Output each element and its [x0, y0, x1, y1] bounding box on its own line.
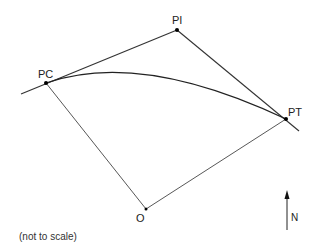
scale-note: (not to scale) — [19, 231, 77, 242]
pc-label: PC — [38, 68, 53, 80]
north-arrow-icon — [285, 190, 290, 230]
pt-label: PT — [288, 106, 302, 118]
circular-curve — [46, 72, 286, 119]
pi-point — [175, 28, 179, 32]
radius-pc-line — [46, 83, 146, 209]
curve-diagram: PC PI PT O N (not to scale) — [0, 0, 319, 248]
back-tangent-line — [21, 30, 177, 94]
north-label: N — [291, 212, 298, 223]
radius-pt-line — [146, 119, 286, 209]
o-point — [145, 208, 148, 211]
pi-label: PI — [172, 14, 182, 26]
pc-point — [44, 81, 48, 85]
o-label: O — [136, 212, 145, 224]
